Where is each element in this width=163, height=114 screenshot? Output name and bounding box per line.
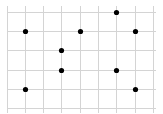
grid-dot [59,48,64,53]
grid-dot [114,10,119,15]
grid-dot [133,29,138,34]
grid-dot [23,29,28,34]
dot-grid-diagram [0,0,163,114]
grid-lines [7,6,156,113]
grid-dot [78,29,83,34]
grid-dot [114,68,119,73]
grid-dot [133,87,138,92]
grid-dot [23,87,28,92]
grid-dot [59,68,64,73]
